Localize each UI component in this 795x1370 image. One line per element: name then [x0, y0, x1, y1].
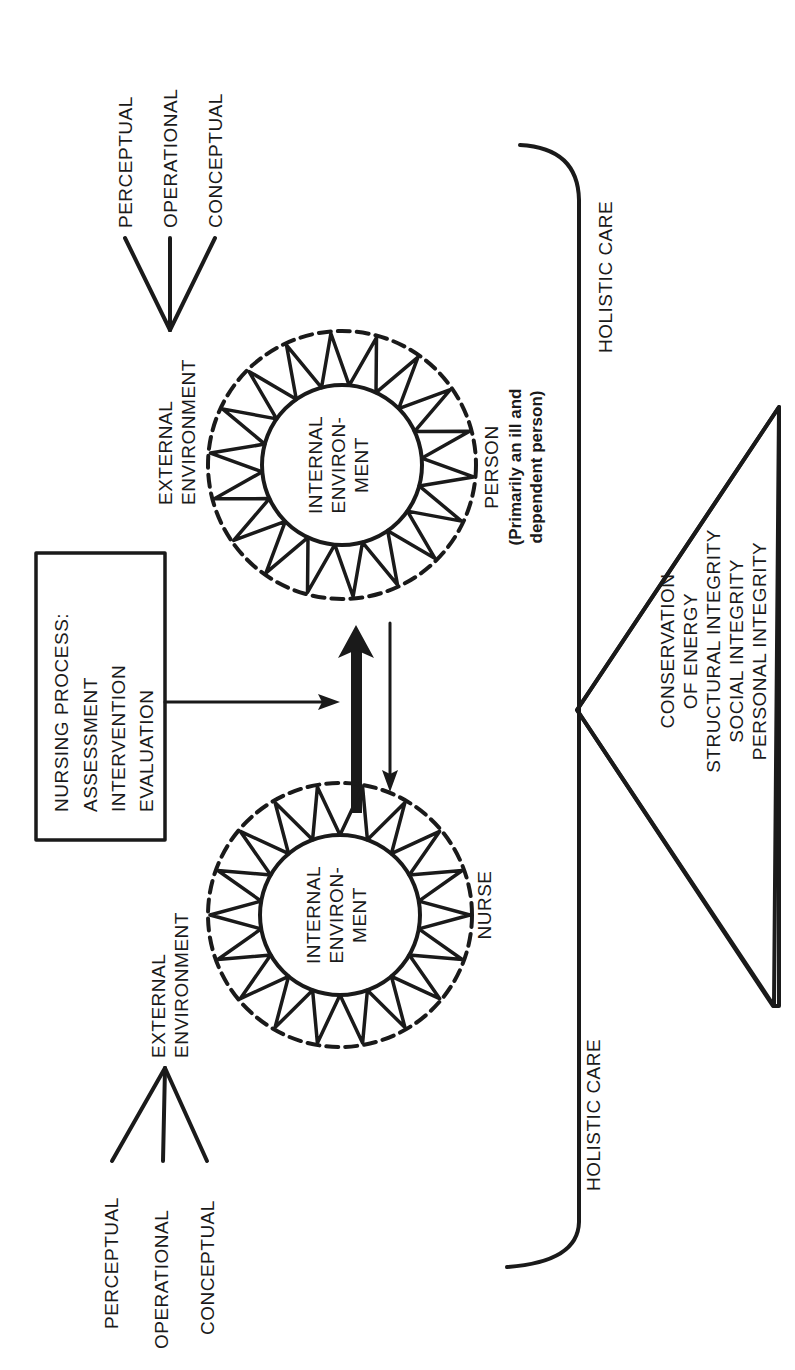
nursing-process-assessment: ASSESSMENT: [80, 677, 101, 812]
person-sublabel-1: (Primarily an ill and: [506, 389, 525, 546]
principle-social-integrity: SOCIAL INTEGRITY: [726, 559, 747, 743]
nurse-external-line-1: EXTERNAL: [148, 954, 169, 1058]
nurse-environment-circle: INTERNAL ENVIRON- MENT: [208, 783, 472, 1047]
nurse-internal-line-1: INTERNAL: [303, 866, 324, 964]
external-line-2: ENVIRONMENT: [178, 359, 199, 505]
holistic-care-label-bottom: HOLISTIC CARE: [583, 1039, 604, 1191]
person-external-environment-label: EXTERNAL ENVIRONMENT: [155, 359, 199, 505]
nurse-label: NURSE: [474, 870, 495, 939]
principle-structural-integrity: STRUCTURAL INTEGRITY: [703, 529, 724, 773]
level-operational-top: OPERATIONAL: [160, 89, 181, 228]
holistic-care-label-top: HOLISTIC CARE: [595, 201, 616, 353]
process-arrow: [165, 694, 340, 710]
principle-conservation-line-2: OF ENERGY: [680, 593, 701, 709]
external-levels-bottom: PERCEPTUAL OPERATIONAL CONCEPTUAL: [101, 1068, 218, 1349]
external-levels-top: PERCEPTUAL OPERATIONAL CONCEPTUAL: [115, 89, 226, 330]
external-line-1: EXTERNAL: [155, 401, 176, 505]
conservation-principles-triangle: CONSERVATION OF ENERGY STRUCTURAL INTEGR…: [577, 407, 779, 1006]
person-to-nurse-arrow: [382, 623, 398, 792]
nursing-process-intervention: INTERVENTION: [108, 665, 129, 812]
level-perceptual-bottom: PERCEPTUAL: [101, 1197, 122, 1329]
principle-personal-integrity: PERSONAL INTEGRITY: [749, 542, 770, 760]
level-operational-bottom: OPERATIONAL: [151, 1210, 172, 1349]
nursing-process-evaluation: EVALUATION: [136, 689, 157, 812]
level-conceptual-top: CONCEPTUAL: [205, 93, 226, 228]
person-environment-circle: INTERNAL ENVIRON- MENT: [208, 331, 476, 599]
person-title: PERSON: [481, 425, 502, 508]
conservation-model-diagram: PERCEPTUAL OPERATIONAL CONCEPTUAL EXTERN…: [0, 0, 795, 1370]
nurse-external-line-2: ENVIRONMENT: [171, 912, 192, 1058]
holistic-care-bracket: HOLISTIC CARE HOLISTIC CARE: [507, 145, 616, 1267]
nursing-process-title: NURSING PROCESS:: [51, 613, 72, 812]
level-conceptual-bottom: CONCEPTUAL: [197, 1200, 218, 1335]
nurse-internal-line-2: ENVIRON-: [326, 867, 347, 964]
nursing-process-box: NURSING PROCESS: ASSESSMENT INTERVENTION…: [36, 553, 165, 840]
person-label: PERSON (Primarily an ill and dependent p…: [481, 389, 546, 546]
person-internal-line-2: ENVIRON-: [328, 417, 349, 514]
principle-conservation-line-1: CONSERVATION: [657, 574, 678, 729]
level-perceptual-top: PERCEPTUAL: [115, 96, 136, 228]
nurse-external-environment-label: EXTERNAL ENVIRONMENT: [148, 912, 192, 1058]
person-sublabel-2: dependent person): [527, 390, 546, 543]
person-internal-line-1: INTERNAL: [305, 416, 326, 514]
person-internal-line-3: MENT: [351, 437, 372, 493]
nurse-internal-line-3: MENT: [349, 887, 370, 943]
